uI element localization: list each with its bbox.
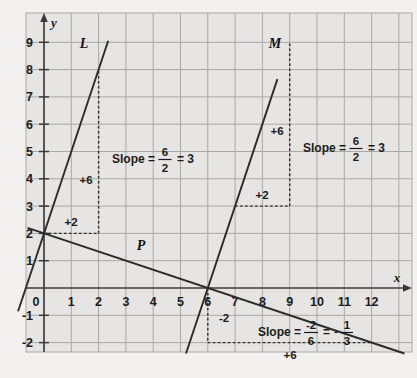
line-L-slope-numerator: 6 [162, 146, 168, 158]
x-tick-label: 2 [95, 295, 102, 309]
y-tick-label: -1 [22, 309, 33, 323]
line-L-label: L [79, 36, 89, 51]
y-tick-label: 9 [26, 36, 33, 50]
line-M-slope-result: = 3 [368, 141, 385, 155]
line-L-run-label: +2 [64, 216, 77, 228]
x-tick-label: 1 [68, 295, 75, 309]
x-tick-label: 11 [338, 295, 351, 309]
y-tick-label: 1 [26, 254, 33, 268]
line-M-rise-label: +6 [270, 125, 283, 137]
origin-label: 0 [33, 295, 40, 309]
line-L-slope-result: = 3 [177, 152, 194, 166]
line-L-slope-text: Slope = [112, 152, 155, 166]
line-L-slope-denominator: 2 [162, 162, 168, 174]
line-M-slope-text: Slope = [303, 141, 346, 155]
line-P-result-sign: - [334, 325, 338, 339]
y-tick-label: 6 [26, 118, 33, 132]
line-P-result-numerator: 1 [344, 319, 351, 331]
line-M-label: M [268, 36, 282, 51]
y-tick-label: -2 [22, 336, 33, 350]
coordinate-plane-svg: 9 8 7 6 5 4 3 2 1 -1 -2 0 1 2 3 4 5 6 7 … [0, 0, 417, 378]
line-M-run-label: +2 [255, 189, 268, 201]
x-tick-label: 5 [177, 295, 184, 309]
y-tick-label: 7 [26, 90, 33, 104]
x-tick-label: 10 [310, 295, 324, 309]
line-P-rise-label: -2 [219, 312, 229, 324]
y-axis-name: y [49, 15, 57, 30]
line-P-slope-numerator: -2 [306, 319, 316, 331]
line-M-slope-denominator: 2 [353, 151, 359, 163]
x-tick-label: 3 [122, 295, 129, 309]
line-P-result-denominator: 3 [344, 335, 350, 347]
y-tick-label: 4 [26, 172, 33, 186]
line-L-rise-label: +6 [79, 174, 92, 186]
x-tick-label: 4 [150, 295, 157, 309]
line-P-label: P [137, 238, 146, 253]
line-P-run-label: +6 [283, 349, 296, 361]
line-P-slope-equals: = [323, 325, 330, 339]
y-tick-label: 3 [26, 200, 33, 214]
x-axis-name: x [393, 270, 401, 285]
line-M-slope-numerator: 6 [353, 135, 359, 147]
line-P-slope-text: Slope = [258, 325, 301, 339]
x-tick-label: 12 [365, 295, 379, 309]
y-tick-label: 8 [26, 63, 33, 77]
x-tick-label: 9 [286, 295, 293, 309]
y-tick-label: 5 [26, 145, 33, 159]
line-P-slope-denominator: 6 [308, 335, 314, 347]
graph-figure: 9 8 7 6 5 4 3 2 1 -1 -2 0 1 2 3 4 5 6 7 … [0, 0, 417, 378]
